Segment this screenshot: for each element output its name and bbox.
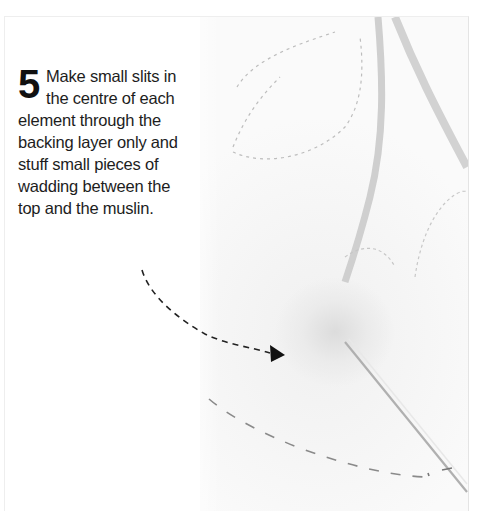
arrow-head-icon	[270, 345, 285, 362]
page-frame: 5 Make small slits in the centre of each…	[4, 16, 469, 511]
needle	[345, 342, 467, 492]
needle-highlight	[349, 339, 467, 484]
circle-stitch	[415, 191, 467, 277]
instruction-block: 5 Make small slits in the centre of each…	[18, 65, 193, 219]
cord-left	[345, 17, 382, 282]
dashed-stitch-line	[209, 399, 425, 477]
stitch-tail	[428, 468, 452, 476]
cord-right	[395, 17, 467, 167]
arrow-dashed-line	[142, 270, 270, 353]
instruction-text: Make small slits in the centre of each e…	[18, 67, 178, 217]
step-number: 5	[18, 67, 40, 101]
leaf-stitch-outline	[233, 32, 362, 159]
